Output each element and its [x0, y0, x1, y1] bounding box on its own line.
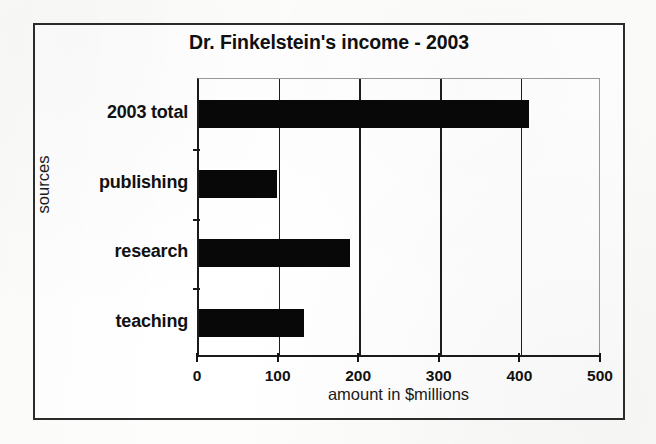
bar-band — [199, 239, 599, 267]
x-axis-tick-100 — [277, 353, 279, 362]
y-axis-tick — [193, 288, 200, 290]
y-axis-label-2003-total: 2003 total — [107, 102, 188, 123]
y-axis-tick — [193, 149, 200, 151]
x-axis-tick-0 — [196, 353, 198, 362]
bar-band — [199, 100, 599, 128]
y-axis-tick — [193, 219, 200, 221]
x-axis-tick-300 — [438, 353, 440, 362]
x-axis-title: amount in $millions — [197, 385, 600, 404]
x-axis-tick-400 — [518, 353, 520, 362]
y-axis-tick-labels: teachingresearchpublishing2003 total — [60, 78, 188, 357]
scanned-page: Dr. Finkelstein's income - 2003 sources … — [0, 0, 656, 444]
x-axis-label-200: 200 — [345, 367, 371, 385]
bar-band — [199, 170, 599, 198]
x-axis-label-400: 400 — [506, 367, 532, 385]
y-axis-label-research: research — [115, 241, 188, 262]
bar-band — [199, 309, 599, 337]
x-axis-label-100: 100 — [265, 367, 291, 385]
y-axis-label-publishing: publishing — [99, 172, 188, 193]
plot-area — [197, 78, 600, 357]
x-axis-tick-200 — [357, 353, 359, 362]
y-axis-title: sources — [34, 135, 53, 235]
x-axis-tick-500 — [599, 353, 601, 362]
bar-2003-total — [199, 100, 529, 128]
x-axis-label-300: 300 — [426, 367, 452, 385]
y-axis-label-teaching: teaching — [116, 311, 188, 332]
bar-research — [199, 239, 350, 267]
x-axis-label-500: 500 — [587, 367, 613, 385]
chart-title: Dr. Finkelstein's income - 2003 — [33, 31, 625, 54]
x-axis-label-0: 0 — [193, 367, 202, 385]
bar-teaching — [199, 309, 304, 337]
bar-publishing — [199, 170, 277, 198]
